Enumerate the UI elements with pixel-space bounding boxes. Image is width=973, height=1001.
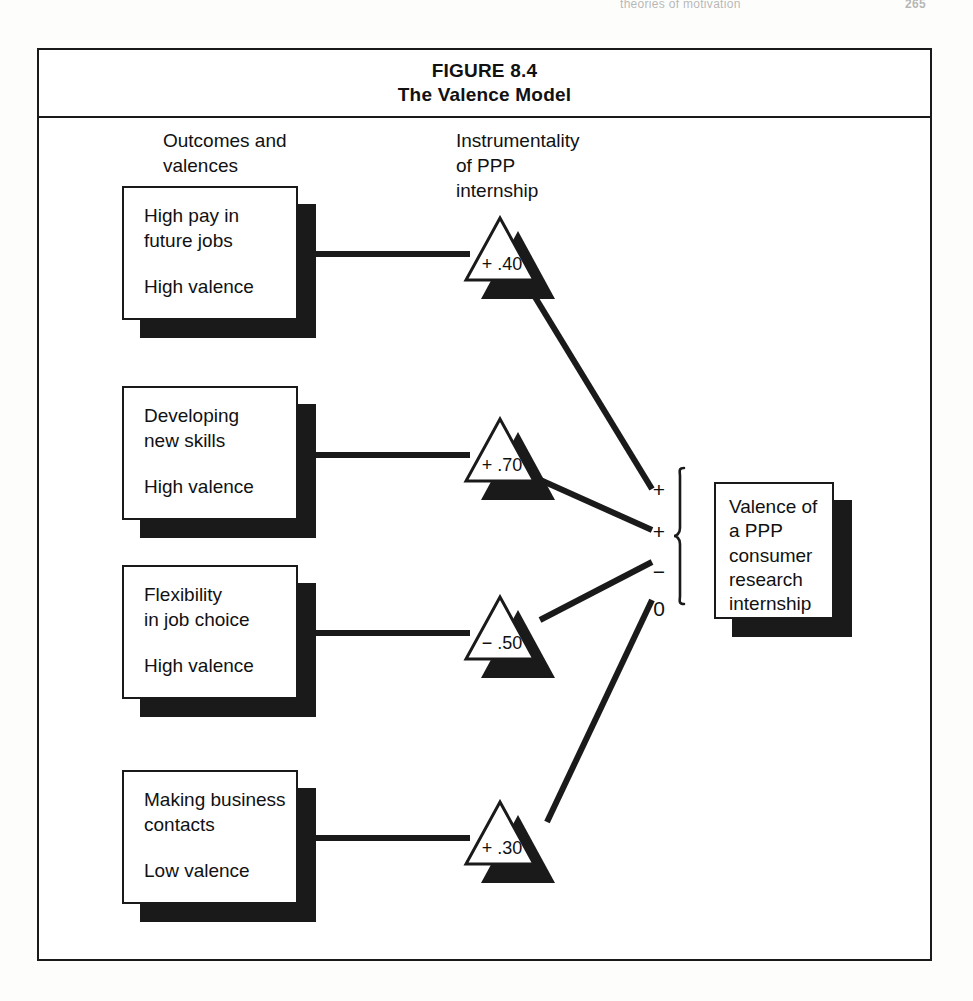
running-title: theories of motivation	[620, 0, 741, 11]
instrumentality-triangle-3[interactable]: − .50	[463, 594, 573, 694]
grouping-brace-icon	[672, 466, 698, 606]
instrumentality-triangle-4[interactable]: + .30	[463, 799, 573, 899]
sign-4: 0	[648, 598, 670, 619]
column-header-instrumentality: Instrumentality of PPP internship	[456, 128, 580, 203]
figure-title: The Valence Model	[398, 83, 571, 108]
result-text: Valence of a PPP consumer research inter…	[729, 495, 832, 617]
instrumentality-triangle-2[interactable]: + .70	[463, 416, 573, 516]
instrumentality-triangle-1[interactable]: + .40	[463, 215, 573, 315]
sign-1: +	[648, 479, 670, 500]
instrumentality-value: + .30	[469, 839, 535, 857]
result-box[interactable]: Valence of a PPP consumer research inter…	[714, 482, 854, 637]
outcome-valence: High valence	[144, 275, 296, 300]
instrumentality-value: − .50	[469, 634, 535, 652]
figure-label: FIGURE 8.4	[432, 59, 537, 83]
outcome-title: High pay in future jobs	[144, 204, 296, 253]
outcome-title: Flexibility in job choice	[144, 583, 296, 632]
column-header-outcomes: Outcomes and valences	[163, 128, 287, 178]
outcome-title: Making business contacts	[144, 788, 296, 837]
page-running-header: theories of motivation 265	[0, 0, 973, 13]
sign-3: −	[648, 561, 670, 582]
sign-2: +	[648, 521, 670, 542]
instrumentality-value: + .70	[469, 456, 535, 474]
outcome-valence: Low valence	[144, 859, 296, 884]
instrumentality-value: + .40	[469, 255, 535, 273]
page-number: 265	[905, 0, 926, 11]
outcome-valence: High valence	[144, 475, 296, 500]
outcome-valence: High valence	[144, 654, 296, 679]
figure-title-bar: FIGURE 8.4 The Valence Model	[39, 50, 930, 118]
figure-root: theories of motivation 265 FIGURE 8.4 Th…	[0, 0, 973, 1001]
outcome-title: Developing new skills	[144, 404, 296, 453]
